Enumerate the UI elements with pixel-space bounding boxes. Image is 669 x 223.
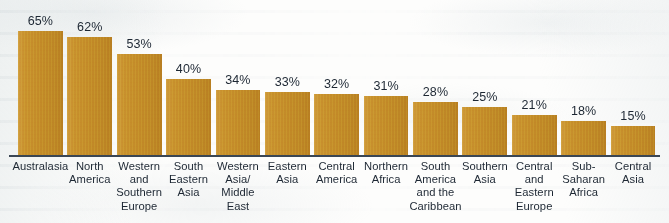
bar [216,90,261,155]
category-label-line: Europe [108,200,171,213]
bar-column: 32% [314,0,359,223]
bar-fill [512,115,557,155]
bar-fill [413,102,458,155]
bar-value-label: 15% [597,109,669,123]
bar [561,121,606,155]
bar-fill [611,126,656,155]
category-label-line: Central [602,160,665,173]
x-axis-category-label: CentralAsia [602,160,665,186]
bar [67,37,112,155]
category-label-line: Caribbean [404,200,467,213]
bar [364,96,409,155]
bar [265,92,310,155]
category-label-line: Africa [552,186,615,199]
bar-fill [166,79,211,155]
category-label-line: and the [404,186,467,199]
bar-column: 31% [364,0,409,223]
bar-fill [18,31,63,155]
bar [166,79,211,155]
category-label-line: East [207,200,270,213]
bar-column: 62% [67,0,112,223]
bar [18,31,63,155]
bar-fill [561,121,606,155]
category-label-line: Middle [207,186,270,199]
bar-fill [67,37,112,155]
bar-fill [462,107,507,155]
category-label-line: Asia [602,173,665,186]
scanned-chart-page: 65%62%53%40%34%33%32%31%28%25%21%18%15% … [0,0,669,223]
bar [512,115,557,155]
bar-fill [364,96,409,155]
bar-fill [314,94,359,155]
bar-value-label: 53% [103,37,176,51]
bar-value-label: 62% [53,20,126,34]
category-label-line: Europe [503,200,566,213]
bar-column: 15% [611,0,656,223]
bar-fill [216,90,261,155]
bar-column: 33% [265,0,310,223]
bar-fill [265,92,310,155]
x-axis-baseline [9,155,660,157]
bar [314,94,359,155]
bar [413,102,458,155]
bar [462,107,507,155]
bar [611,126,656,155]
